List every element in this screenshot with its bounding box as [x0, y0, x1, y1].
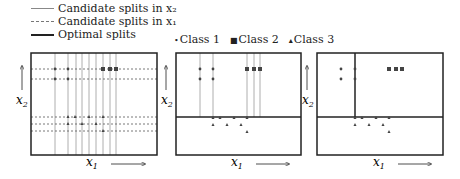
svg-text:x2: x2: [16, 93, 28, 109]
panel-second-optimal-split: x2 x1: [302, 53, 443, 171]
svg-text:x1: x1: [231, 155, 243, 171]
panel-candidate-splits: x2 x1: [16, 53, 157, 171]
svg-text:x2: x2: [161, 93, 173, 109]
svg-text:x1: x1: [373, 155, 385, 171]
split-diagrams: x2 x1 x2 x1: [0, 0, 460, 179]
svg-text:x2: x2: [302, 93, 314, 109]
panel-first-optimal-split: x2 x1: [161, 53, 301, 171]
svg-text:x1: x1: [86, 155, 98, 171]
